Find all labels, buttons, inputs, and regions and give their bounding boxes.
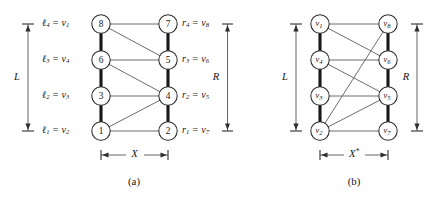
panel-a-cross-edges [101,24,168,131]
node-v4[interactable]: v4 [311,51,329,69]
left-label-2: ℓ2 = v3 [42,89,70,100]
edge-v1-v6 [320,24,388,60]
bracket-R-panel-a: R [212,24,233,131]
node-v6[interactable]: v6 [379,51,397,69]
right-label-1: r1 = v7 [182,124,210,135]
edge-1-4 [101,96,168,131]
node-v5-label: v5 [384,91,392,100]
caption-b: (b) [348,175,361,188]
bracket-L-label-b: L [281,71,288,82]
node-v8[interactable]: v8 [379,15,397,33]
node-1-label: 1 [99,126,104,136]
right-label-2: r2 = v5 [182,89,210,100]
left-label-4: ℓ4 = v1 [42,17,69,28]
left-label-3: ℓ3 = v4 [42,53,70,64]
node-v4-label: v4 [316,55,324,64]
bracket-R-panel-b: R [402,24,423,131]
node-3[interactable]: 3 [92,87,110,105]
node-8-label: 8 [99,19,104,29]
node-3-label: 3 [99,91,104,101]
bracket-R-label-a: R [212,71,220,82]
bracket-L-panel-b: L [281,24,302,131]
panel-b-cross-edges [320,24,388,131]
node-v3[interactable]: v3 [311,87,329,105]
right-label-4: r4 = v8 [182,17,210,28]
figure-container: L ℓ4 = v1 ℓ3 = v4 ℓ2 = v3 ℓ1 = v2 [0,0,443,201]
node-v2-label: v2 [316,126,324,135]
node-2[interactable]: 2 [159,122,177,140]
node-8[interactable]: 8 [92,15,110,33]
node-v6-label: v6 [384,55,392,64]
bracket-L-label-a: L [13,71,20,82]
node-5[interactable]: 5 [159,51,177,69]
width-bracket-a: X [101,148,168,162]
panel-b: L v1 [281,15,423,189]
panel-a-right-labels: r4 = v8 r3 = v6 r2 = v5 r1 = v7 [182,17,210,135]
node-v3-label: v3 [316,91,324,100]
node-v7[interactable]: v7 [379,122,397,140]
edge-6-4 [101,60,168,96]
edge-v2-v8 [320,24,388,131]
panel-a: L ℓ4 = v1 ℓ3 = v4 ℓ2 = v3 ℓ1 = v2 [13,15,233,189]
node-7-label: 7 [166,19,171,29]
bracket-L-panel-a: L [13,24,34,131]
node-6-label: 6 [99,55,104,65]
figure-svg: L ℓ4 = v1 ℓ3 = v4 ℓ2 = v3 ℓ1 = v2 [0,0,443,201]
left-label-1: ℓ1 = v2 [42,124,70,135]
node-1[interactable]: 1 [92,122,110,140]
edge-8-5 [101,24,168,60]
node-6[interactable]: 6 [92,51,110,69]
node-v7-label: v7 [384,126,392,135]
width-bracket-b: X* [320,147,388,162]
node-2-label: 2 [166,126,171,136]
node-4-label: 4 [166,91,171,101]
node-v1-label: v1 [316,19,323,28]
panel-a-left-labels: ℓ4 = v1 ℓ3 = v4 ℓ2 = v3 ℓ1 = v2 [42,17,70,135]
node-v2[interactable]: v2 [311,122,329,140]
node-7[interactable]: 7 [159,15,177,33]
node-5-label: 5 [166,55,171,65]
node-v1[interactable]: v1 [311,15,329,33]
node-v5[interactable]: v5 [379,87,397,105]
width-label-a: X [130,148,138,159]
node-4[interactable]: 4 [159,87,177,105]
bracket-R-label-b: R [402,71,410,82]
node-v8-label: v8 [384,19,392,28]
caption-a: (a) [128,175,140,188]
right-label-3: r3 = v6 [182,53,210,64]
edge-v2-v5 [320,96,388,131]
